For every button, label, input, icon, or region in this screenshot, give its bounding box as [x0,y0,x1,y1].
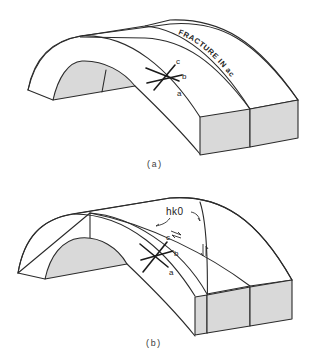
axis-c-line [143,242,167,272]
left-end-edge [28,90,53,100]
figure-a: c b a FRACTURE IN ac (a) [0,0,312,176]
figure-b: hk0 c b a (b) [0,176,312,353]
front-block-left [200,109,250,155]
arch-underside [53,61,135,100]
axis-label-c: c [166,233,170,242]
arch-underside [45,238,127,279]
axis-label-a: a [177,89,182,98]
axis-label-c: c [176,57,180,66]
hk0-label: hk0 [166,206,184,217]
axis-label-a: a [169,268,174,277]
fold-diagram-a: c b a FRACTURE IN ac (a) [0,0,312,176]
axis-b-line [147,75,182,83]
axis-label-b: b [174,249,179,258]
fold-top-surface [18,198,292,294]
front-block-right [250,280,292,326]
front-block-middle [207,287,250,333]
axis-label-b: b [182,72,187,81]
abc-axes: c b a [146,57,187,98]
front-block-left [195,295,207,335]
inner-limb-edge [135,86,200,154]
left-end-edge [18,273,45,279]
inner-limb-edge [127,264,195,336]
fold-diagram-b: hk0 c b a (b) [0,176,312,353]
caption-b: (b) [145,339,161,349]
caption-a: (a) [146,160,162,170]
